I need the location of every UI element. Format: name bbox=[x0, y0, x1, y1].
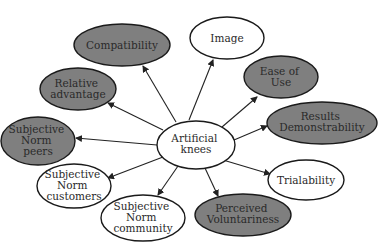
edge-to-perceived-voluntariness bbox=[205, 168, 218, 196]
svg-text:Relative advantage: Relative advantage bbox=[50, 77, 105, 100]
node-subjective-norm-peers: Subjective Norm peers bbox=[1, 117, 75, 165]
node-label-line: Trialability bbox=[277, 174, 335, 186]
edge-to-compatibility bbox=[143, 66, 176, 122]
svg-text:Trialability: Trialability bbox=[277, 174, 335, 186]
node-ease-of-use: Ease of Use bbox=[244, 56, 318, 98]
node-results-demonstrability: Results Demonstrability bbox=[267, 102, 377, 144]
edge-to-subjective-norm-peers bbox=[76, 138, 157, 145]
node-compatibility: Compatibility bbox=[74, 24, 170, 66]
edge-to-trialability bbox=[223, 160, 270, 174]
node-subjective-norm-customers: Subjective Norm customers bbox=[37, 164, 111, 208]
node-label-line: community bbox=[113, 222, 172, 234]
node-label-line: Use bbox=[271, 76, 291, 88]
node-relative-advantage: Relative advantage bbox=[40, 68, 116, 110]
node-image: Image bbox=[190, 17, 264, 59]
node-label-line: customers bbox=[46, 190, 101, 202]
svg-text:Compatibility: Compatibility bbox=[86, 39, 158, 51]
edge-to-relative-advantage bbox=[108, 103, 163, 130]
node-label-line: advantage bbox=[50, 88, 105, 100]
edge-to-ease-of-use bbox=[222, 97, 257, 127]
edge-to-results-demonstrability bbox=[234, 126, 267, 140]
edge-to-subjective-norm-community bbox=[158, 166, 178, 195]
edge-to-image bbox=[189, 60, 213, 120]
node-label-line: peers bbox=[23, 145, 53, 157]
svg-text:Perceived Voluntariness: Perceived Voluntariness bbox=[206, 202, 279, 225]
node-label-line: Image bbox=[210, 32, 243, 44]
node-subjective-norm-community: Subjective Norm community bbox=[101, 195, 185, 241]
node-artificial-knees: Artificial knees bbox=[157, 121, 235, 169]
node-trialability: Trialability bbox=[268, 160, 344, 200]
edge-to-subjective-norm-customers bbox=[108, 157, 163, 178]
svg-text:Image: Image bbox=[210, 32, 243, 44]
node-label-line: Demonstrability bbox=[279, 121, 365, 133]
innovation-attributes-diagram: Compatibility Image Relative advantage E… bbox=[0, 0, 380, 252]
node-perceived-voluntariness: Perceived Voluntariness bbox=[195, 194, 291, 236]
node-label-line: Compatibility bbox=[86, 39, 158, 51]
node-label-line: Voluntariness bbox=[206, 213, 279, 225]
node-label-line: knees bbox=[181, 143, 212, 155]
